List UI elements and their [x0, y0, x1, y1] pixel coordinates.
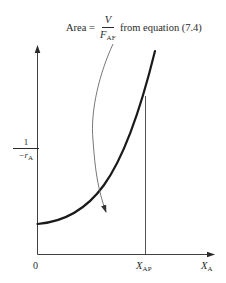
y-axis-label: 1 −rA [13, 138, 39, 162]
y-label-denominator: −rA [19, 149, 34, 162]
y-label-numerator: 1 [13, 138, 39, 149]
area-suffix: from equation (7.4) [120, 23, 202, 34]
x-axis-label: XA [201, 261, 213, 273]
xap-label: XAP [136, 261, 152, 273]
area-annotation-label: Area = V FAF from equation (7.4) [66, 15, 202, 42]
fraction-numerator: V [102, 15, 114, 28]
fraction-denominator-subscript: AF [106, 34, 116, 42]
xa-subscript: A [207, 265, 212, 273]
fraction-denominator: FAF [100, 28, 116, 42]
area-fraction: V FAF [100, 15, 116, 42]
area-prefix: Area = [66, 23, 95, 34]
y-label-denominator-symbol: −r [19, 150, 29, 160]
xap-subscript: AP [142, 265, 152, 273]
origin-label: 0 [33, 261, 38, 271]
y-label-denominator-subscript: A [28, 154, 33, 162]
rate-curve [38, 51, 156, 224]
